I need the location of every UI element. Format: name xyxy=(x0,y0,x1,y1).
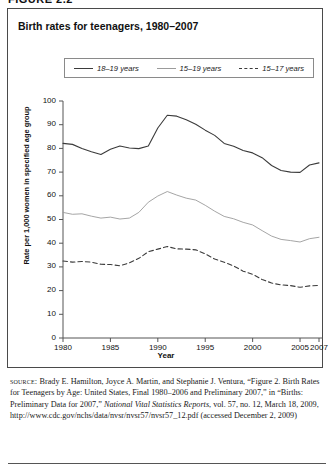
line-chart-svg xyxy=(8,9,324,369)
figure-number-header: FIGURE 2.2 xyxy=(0,0,334,7)
series-line-15-17 xyxy=(63,247,319,288)
bottom-divider xyxy=(8,463,326,464)
series-line-15-19 xyxy=(63,192,319,242)
source-note: source: Brady E. Hamilton, Joyce A. Mart… xyxy=(10,376,324,422)
source-line-4-pre: 2007,” xyxy=(80,400,104,409)
figure-panel: Birth rates for teenagers, 1980–2007 18–… xyxy=(7,8,323,368)
source-line-1: Brady E. Hamilton, Joyce A. Martin, and … xyxy=(37,377,245,386)
source-access-date: (accessed December 2, 2009) xyxy=(201,411,297,420)
figure-number-label: FIGURE 2.2 xyxy=(8,0,73,5)
source-keyword: source: xyxy=(10,376,37,386)
source-line-4-post: , vol. 57, no. 12, March 18, xyxy=(209,400,298,409)
source-publication-title: National Vital Statistics Reports xyxy=(104,400,209,409)
plot-area: Rate per 1,000 women in specified age gr… xyxy=(8,9,324,369)
series-line-18-19 xyxy=(63,115,319,172)
